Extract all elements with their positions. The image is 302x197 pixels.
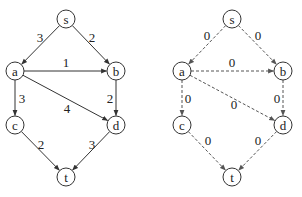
graph-reduced-weights: 00000000sabcdt: [173, 10, 292, 186]
edge-weight-s-a: 0: [204, 28, 211, 43]
edge-weight-d-t: 3: [89, 137, 96, 152]
node-a: a: [6, 62, 24, 80]
edge-weight-a-d: 4: [64, 101, 71, 116]
edge-weight-b-d: 2: [107, 91, 114, 106]
node-label: c: [179, 118, 185, 133]
node-a: a: [173, 62, 191, 80]
node-t: t: [57, 168, 75, 186]
node-label: c: [12, 118, 18, 133]
node-label: s: [229, 12, 234, 27]
edge-weight-s-a: 3: [37, 30, 44, 45]
edge-weight-a-d: 0: [231, 97, 238, 112]
node-label: b: [280, 64, 287, 79]
node-s: s: [57, 10, 75, 28]
node-d: d: [107, 116, 125, 134]
node-c: c: [173, 116, 191, 134]
edge-weight-s-b: 2: [89, 30, 96, 45]
edge-weight-a-b: 0: [229, 55, 236, 70]
node-label: a: [12, 64, 18, 79]
edge-weight-c-t: 0: [205, 133, 212, 148]
node-label: d: [280, 118, 287, 133]
node-label: a: [179, 64, 185, 79]
node-label: t: [64, 170, 68, 185]
edge-weight-d-t: 0: [255, 133, 262, 148]
node-t: t: [223, 168, 241, 186]
edge-weight-a-c: 3: [19, 91, 26, 106]
node-b: b: [107, 62, 125, 80]
graph-original-weights: 32134223sabcdt: [6, 10, 125, 186]
node-c: c: [6, 116, 24, 134]
edge-weight-a-c: 0: [185, 91, 192, 106]
node-d: d: [274, 116, 292, 134]
node-b: b: [274, 62, 292, 80]
graph-diagram: 32134223sabcdt 00000000sabcdt: [0, 0, 302, 197]
node-s: s: [223, 10, 241, 28]
node-label: s: [63, 12, 68, 27]
edge-weight-a-b: 1: [63, 55, 70, 70]
edge-weight-b-d: 0: [274, 91, 281, 106]
node-label: d: [113, 118, 120, 133]
node-label: t: [230, 170, 234, 185]
edge-weight-s-b: 0: [255, 28, 262, 43]
node-label: b: [113, 64, 120, 79]
edge-weight-c-t: 2: [38, 137, 45, 152]
